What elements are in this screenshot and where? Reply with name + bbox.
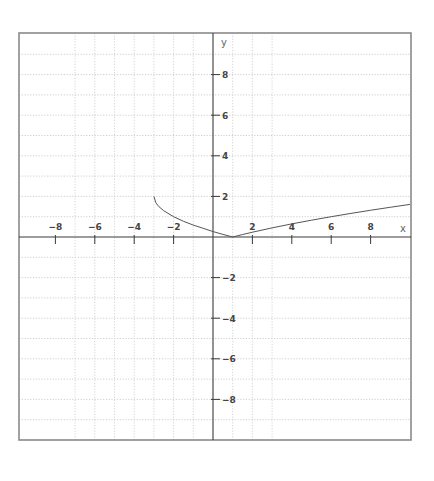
- x-tick-label: 8: [367, 222, 373, 232]
- y-tick-label: −8: [222, 395, 236, 405]
- x-tick-label: −4: [127, 222, 141, 232]
- y-tick-label: 6: [222, 111, 228, 121]
- y-axis-label: y: [221, 37, 227, 48]
- function-plot: −8−6−4−224688642−2−4−6−8 x y: [0, 0, 434, 481]
- x-tick-label: 2: [249, 222, 255, 232]
- x-tick-label: −8: [48, 222, 62, 232]
- y-tick-label: 2: [222, 192, 228, 202]
- x-tick-label: 6: [328, 222, 334, 232]
- y-tick-label: 8: [222, 70, 228, 80]
- y-tick-label: −4: [222, 314, 236, 324]
- y-tick-label: 4: [222, 151, 228, 161]
- y-tick-label: −6: [222, 354, 236, 364]
- y-tick-label: −2: [222, 273, 236, 283]
- x-tick-label: −6: [88, 222, 102, 232]
- x-axis-label: x: [400, 223, 406, 234]
- x-tick-label: −2: [167, 222, 181, 232]
